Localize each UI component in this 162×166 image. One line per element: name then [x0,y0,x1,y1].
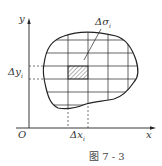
delta-y-label: Δyi [8,67,23,79]
origin-label: O [18,130,26,140]
shaded-cell [68,66,88,79]
region-boundary [43,32,138,109]
y-axis-label: y [19,14,25,24]
delta-sigma-label: Δσi [95,17,111,29]
grid [30,20,150,120]
figure-caption: 图 7 - 3 [89,152,125,162]
delta-x-label: Δxi [70,130,85,142]
x-axis-label: x [146,130,152,140]
delta-sigma-leader [84,29,101,60]
